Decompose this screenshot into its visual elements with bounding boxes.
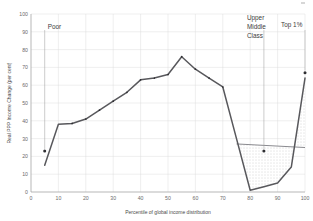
poor-marker-dot <box>43 150 46 153</box>
upper-middle-class-label-line1: Upper <box>247 14 265 22</box>
y-tick-100: 100 <box>19 11 28 17</box>
x-tick-100: 100 <box>301 195 310 201</box>
y-tick-20: 20 <box>22 153 28 159</box>
chart-background <box>0 0 313 221</box>
y-tick-70: 70 <box>22 64 28 70</box>
x-tick-30: 30 <box>110 195 116 201</box>
poor-label: Poor <box>48 23 62 30</box>
upper-middle-class-label-line3: Class <box>247 32 263 39</box>
x-tick-10: 10 <box>56 195 62 201</box>
chart-container: 0102030405060708090100 01020304050607080… <box>0 0 313 221</box>
y-tick-30: 30 <box>22 136 28 142</box>
y-tick-80: 80 <box>22 47 28 53</box>
x-tick-50: 50 <box>165 195 171 201</box>
x-tick-0: 0 <box>30 195 33 201</box>
y-tick-90: 90 <box>22 29 28 35</box>
x-tick-70: 70 <box>220 195 226 201</box>
top1-marker-dot <box>304 71 307 74</box>
upper-middle-class-marker-dot <box>262 150 265 153</box>
y-tick-50: 50 <box>22 100 28 106</box>
x-tick-80: 80 <box>247 195 253 201</box>
top1-label: Top 1% <box>281 21 303 29</box>
upper-middle-class-label-line2: Middle <box>247 23 266 30</box>
x-axis-title: Percentile of global income distribution <box>125 209 211 215</box>
y-tick-0: 0 <box>25 189 28 195</box>
y-axis-title: Real PPP Income Change (per cent) <box>6 62 12 143</box>
x-tick-90: 90 <box>275 195 281 201</box>
x-tick-40: 40 <box>138 195 144 201</box>
y-tick-60: 60 <box>22 82 28 88</box>
y-tick-10: 10 <box>22 171 28 177</box>
x-tick-60: 60 <box>193 195 199 201</box>
elephant-curve-chart: 0102030405060708090100 01020304050607080… <box>0 0 313 221</box>
y-tick-40: 40 <box>22 118 28 124</box>
x-tick-20: 20 <box>83 195 89 201</box>
